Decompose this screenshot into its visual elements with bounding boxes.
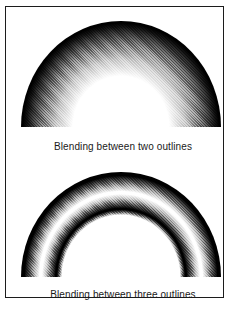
caption-three-outlines: Blending between three outlines <box>13 289 233 300</box>
caption-two-outlines: Blending between two outlines <box>13 141 233 152</box>
three-outline-blend-shape <box>21 172 221 277</box>
two-outline-blend-shape <box>21 21 221 127</box>
scanned-figure-page: Blending between two outlines Blending b… <box>0 0 234 310</box>
figure-border-frame: Blending between two outlines Blending b… <box>5 6 224 298</box>
